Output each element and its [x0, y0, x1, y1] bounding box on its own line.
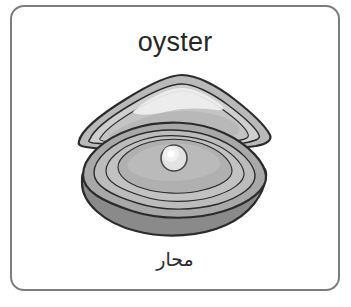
oyster-illustration: [74, 63, 274, 238]
flashcard: oyster: [10, 5, 340, 291]
word-arabic: محار: [12, 247, 338, 271]
pearl-highlight: [167, 150, 174, 157]
pearl-group: [161, 145, 187, 171]
word-english: oyster: [12, 27, 338, 57]
